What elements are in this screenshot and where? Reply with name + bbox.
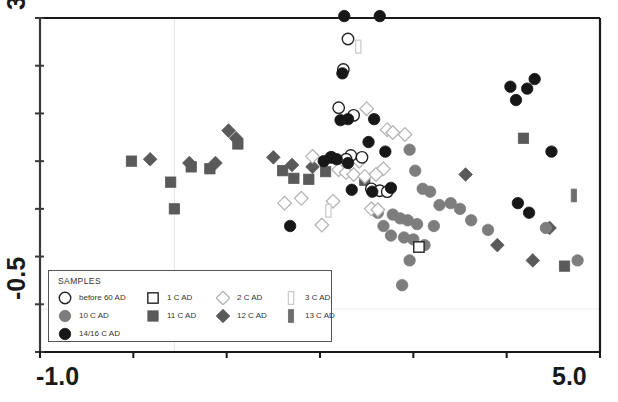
legend-row: 14/16 C AD [58, 325, 326, 342]
data-point [459, 168, 473, 182]
legend-item-c2[interactable]: 2 C AD [216, 289, 262, 306]
data-point [398, 128, 412, 142]
data-point [318, 155, 329, 166]
legend-swatch [59, 310, 70, 321]
legend-swatch [59, 328, 70, 339]
data-point [404, 255, 415, 266]
data-point [454, 203, 465, 214]
legend-box[interactable]: SAMPLES before 60 AD1 C AD2 C AD3 C AD10… [48, 270, 332, 342]
data-point [186, 162, 196, 172]
data-point [331, 154, 342, 165]
x-axis-min-label: -1.0 [36, 362, 79, 391]
legend-swatch [288, 309, 293, 322]
data-point [289, 173, 299, 183]
legend-item-before60[interactable]: before 60 AD [58, 289, 126, 306]
data-point [304, 174, 314, 184]
legend-marker-open-diamond-icon [216, 291, 230, 305]
data-point [465, 215, 476, 226]
legend-swatch [216, 309, 230, 323]
data-point [411, 218, 422, 229]
legend-marker-open-vbar-icon [284, 291, 298, 305]
data-point [523, 207, 534, 218]
series-c1416 [284, 10, 557, 231]
data-point [434, 199, 445, 210]
data-point [559, 261, 569, 271]
data-point [126, 156, 136, 166]
data-point [320, 166, 330, 176]
data-point [337, 68, 348, 79]
data-point [571, 189, 576, 202]
legend-marker-circle-icon [58, 309, 72, 323]
legend-item-c1[interactable]: 1 C AD [146, 289, 192, 306]
legend-item-c11[interactable]: 11 C AD [146, 307, 196, 324]
data-point [505, 81, 516, 92]
legend-label: 10 C AD [79, 311, 109, 320]
data-point [169, 204, 179, 214]
legend-label: 12 C AD [237, 311, 267, 320]
data-point [295, 192, 309, 206]
legend-label: 2 C AD [237, 293, 262, 302]
data-point [233, 139, 243, 149]
series-c1 [414, 242, 424, 252]
legend-item-c1416[interactable]: 14/16 C AD [58, 325, 120, 342]
legend-marker-circle-icon [58, 327, 72, 341]
legend-label: 11 C AD [167, 311, 196, 320]
data-point [521, 83, 532, 94]
data-point [529, 73, 540, 84]
legend-label: before 60 AD [79, 293, 126, 302]
legend-marker-open-square-icon [146, 291, 160, 305]
data-point [512, 197, 523, 208]
legend-row: before 60 AD1 C AD2 C AD3 C AD [58, 289, 326, 306]
data-point [396, 279, 407, 290]
legend-swatch [216, 291, 230, 305]
data-point [306, 150, 320, 164]
y-axis-max-label: 3.0 [2, 0, 31, 10]
legend-label: 13 C AD [305, 311, 335, 320]
data-point [546, 146, 557, 157]
legend-item-c10[interactable]: 10 C AD [58, 307, 109, 324]
data-point [385, 182, 396, 193]
data-point [315, 218, 329, 232]
legend-item-c13[interactable]: 13 C AD [284, 307, 335, 324]
legend-item-c3[interactable]: 3 C AD [284, 289, 330, 306]
data-point [267, 151, 281, 165]
legend-marker-diamond-icon [216, 309, 230, 323]
data-point [428, 220, 439, 231]
data-point [284, 220, 295, 231]
legend-swatch [148, 310, 158, 320]
legend-label: 1 C AD [167, 293, 192, 302]
legend-marker-open-circle-icon [58, 291, 72, 305]
data-point [335, 114, 346, 125]
data-point [518, 133, 528, 143]
data-point [491, 238, 505, 252]
data-point [368, 113, 379, 124]
data-point [363, 136, 374, 147]
x-axis-max-label: 5.0 [552, 362, 587, 391]
data-point [346, 184, 357, 195]
data-point [385, 230, 396, 241]
legend-swatch [148, 292, 158, 302]
data-point [342, 157, 353, 168]
data-point [326, 204, 331, 217]
data-point [409, 165, 420, 176]
data-point [143, 152, 157, 166]
data-point [342, 33, 353, 44]
legend-item-c12[interactable]: 12 C AD [216, 307, 267, 324]
data-point [378, 220, 389, 231]
data-point [540, 222, 551, 233]
series-c10 [372, 144, 583, 291]
data-point [367, 186, 378, 197]
legend-label: 3 C AD [305, 293, 330, 302]
legend-marker-square-icon [146, 309, 160, 323]
data-point [339, 10, 350, 21]
legend-title: SAMPLES [58, 276, 101, 286]
data-point [374, 10, 385, 21]
data-point [510, 94, 521, 105]
data-point [360, 102, 374, 116]
legend-label: 14/16 C AD [79, 329, 120, 338]
legend-marker-vbar-icon [284, 309, 298, 323]
data-point [404, 144, 415, 155]
data-point [526, 254, 540, 268]
legend-row: 10 C AD11 C AD12 C AD13 C AD [58, 307, 326, 324]
data-point [414, 242, 424, 252]
